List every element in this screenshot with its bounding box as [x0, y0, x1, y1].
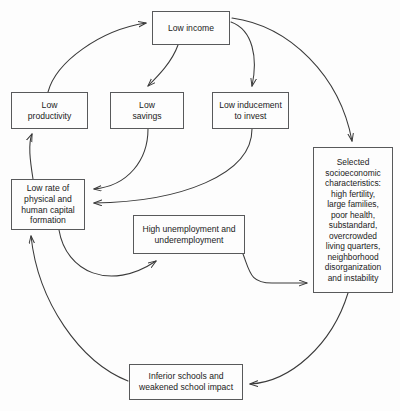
- node-inferior-schools[interactable]: Inferior schools and weakened school imp…: [129, 364, 243, 400]
- edge-productivity-to-income: [48, 23, 146, 92]
- edge-unemployment-to-socioeconomic: [243, 254, 307, 283]
- node-low-inducement-to-invest[interactable]: Low inducement to invest: [212, 92, 289, 129]
- edge-inducement-to-capital: [94, 129, 252, 203]
- diagram-canvas: Low incomeLow productivityLow savingsLow…: [0, 0, 400, 411]
- edge-income-to-savings: [148, 45, 178, 86]
- node-label-low-savings: Low savings: [111, 100, 183, 121]
- node-selected-socioeconomic-characteristics[interactable]: Selected socioeconomic characteristics: …: [313, 147, 393, 293]
- edge-schools-to-capital: [31, 236, 128, 381]
- edge-savings-to-capital: [94, 129, 148, 189]
- node-label-selected-socioeconomic-characteristics: Selected socioeconomic characteristics: …: [314, 157, 392, 283]
- node-low-productivity[interactable]: Low productivity: [11, 92, 88, 129]
- node-label-low-productivity: Low productivity: [12, 100, 87, 121]
- node-label-low-rate-of-capital-formation: Low rate of physical and human capital f…: [12, 183, 84, 226]
- node-label-low-income: Low income: [153, 23, 229, 34]
- node-low-rate-of-capital-formation[interactable]: Low rate of physical and human capital f…: [11, 179, 85, 230]
- node-high-unemployment[interactable]: High unemployment and underemployment: [133, 215, 245, 254]
- node-label-low-inducement-to-invest: Low inducement to invest: [213, 100, 288, 121]
- node-label-inferior-schools: Inferior schools and weakened school imp…: [130, 371, 242, 392]
- node-low-savings[interactable]: Low savings: [110, 92, 184, 129]
- node-low-income[interactable]: Low income: [152, 11, 230, 45]
- edge-income-to-inducement: [231, 22, 254, 86]
- node-label-high-unemployment: High unemployment and underemployment: [134, 224, 244, 245]
- edge-socioeconomic-to-schools: [250, 293, 348, 384]
- edge-capital-to-productivity: [30, 134, 33, 179]
